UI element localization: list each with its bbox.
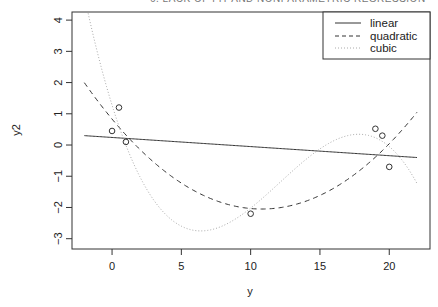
y-tick-label: 0 <box>52 142 64 148</box>
x-tick-label: 10 <box>245 260 257 272</box>
data-point <box>109 128 115 134</box>
y-tick-label: −2 <box>52 201 64 214</box>
y-tick-label: 1 <box>52 111 64 117</box>
y-tick-label: −3 <box>52 232 64 245</box>
x-tick-label: 20 <box>383 260 395 272</box>
legend-cubic-label: cubic <box>370 42 397 54</box>
data-point <box>248 211 254 217</box>
legend-quadratic-label: quadratic <box>370 30 418 42</box>
y-axis-title: y2 <box>10 124 22 136</box>
y-axis: −3−2−101234 <box>52 17 72 245</box>
data-point <box>373 126 379 132</box>
y-tick-label: 4 <box>52 17 64 23</box>
y-tick-label: 2 <box>52 80 64 86</box>
chart: 05101520 −3−2−101234 y y2 linear quadrat… <box>0 0 438 307</box>
data-point <box>386 164 392 170</box>
x-tick-label: 0 <box>109 260 115 272</box>
y-tick-label: 3 <box>52 48 64 54</box>
legend-linear-label: linear <box>370 17 398 29</box>
quadratic-fit-line <box>84 83 417 209</box>
legend: linear quadratic cubic <box>323 12 430 59</box>
x-tick-label: 15 <box>314 260 326 272</box>
linear-fit-line <box>84 136 417 158</box>
x-axis: 05101520 <box>109 249 395 272</box>
data-point <box>380 133 386 139</box>
data-point <box>116 105 122 111</box>
data-point <box>123 139 129 145</box>
x-tick-label: 5 <box>178 260 184 272</box>
x-axis-title: y <box>247 285 253 297</box>
y-tick-label: −1 <box>52 170 64 183</box>
